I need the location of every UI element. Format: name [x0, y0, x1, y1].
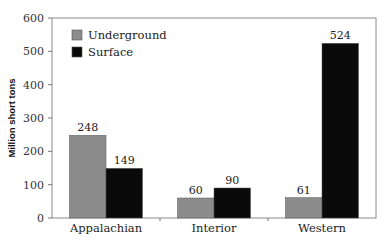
y-tick-label: 400 — [23, 79, 44, 92]
legend-label: Underground — [88, 28, 167, 42]
y-tick-label: 200 — [23, 145, 44, 158]
legend-label: Surface — [88, 45, 133, 59]
y-tick-label: 100 — [23, 179, 44, 192]
legend-swatch-underground — [72, 30, 82, 40]
x-category-label: Western — [298, 221, 347, 235]
x-category-label: Interior — [192, 221, 237, 235]
x-category-label: Appalachian — [69, 221, 143, 235]
bar-value-label: 524 — [330, 29, 351, 42]
bar-value-label: 60 — [189, 184, 203, 197]
bar-surface-western — [322, 43, 359, 218]
bar-value-label: 149 — [114, 154, 135, 167]
y-tick-label: 0 — [37, 212, 44, 225]
y-axis: 0100200300400500600 — [23, 12, 52, 225]
legend: UndergroundSurface — [72, 28, 167, 59]
y-tick-label: 500 — [23, 45, 44, 58]
bar-surface-appalachian — [106, 168, 143, 218]
bar-chart: 0100200300400500600 AppalachianInteriorW… — [0, 0, 385, 243]
bar-value-label: 90 — [225, 174, 239, 187]
legend-swatch-surface — [72, 47, 82, 57]
bar-surface-interior — [214, 188, 251, 218]
x-axis: AppalachianInteriorWestern — [69, 218, 347, 235]
y-axis-label: Million short tons — [6, 78, 17, 157]
y-tick-label: 300 — [23, 112, 44, 125]
bar-underground-western — [286, 198, 323, 218]
y-tick-label: 600 — [23, 12, 44, 25]
bar-underground-appalachian — [70, 135, 107, 218]
bar-value-label: 248 — [77, 121, 98, 134]
bar-underground-interior — [178, 198, 215, 218]
bar-value-label: 61 — [297, 184, 311, 197]
